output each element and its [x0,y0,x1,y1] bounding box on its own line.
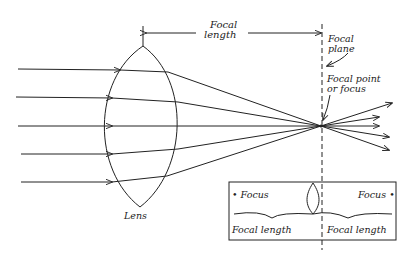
inset-focus-right: Focus • [358,190,395,200]
focal-point-dot [319,124,322,127]
focal-length-label: Focal length [204,20,237,40]
focal-point-label: Focal point or focus [327,74,381,94]
inset-focus-left: • Focus [232,190,269,200]
focal-plane-label: Focal plane [328,34,355,54]
lens-label: Lens [124,211,147,221]
brace-right [313,213,392,218]
inset-focal-length-left: Focal length [232,225,292,235]
incoming-rays [16,69,178,182]
brace-left [234,213,313,218]
inset-focal-length-right: Focal length [327,225,387,235]
focal-plane-leader [327,53,348,66]
focal-point-leader [323,95,330,120]
diverging-rays [321,103,392,150]
inset-lens [307,183,319,214]
lens-diagram: Focal length Focal plane Focal point or … [0,0,407,257]
refracted-rays [167,72,321,176]
